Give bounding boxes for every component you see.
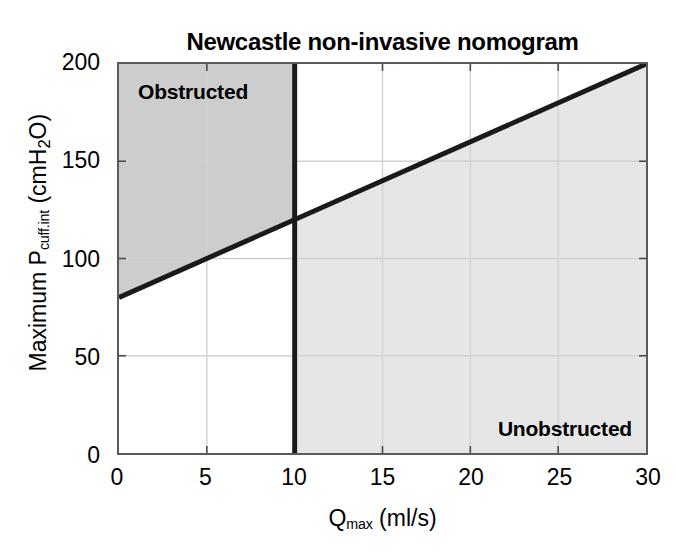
xtick-label-25: 25 <box>530 466 590 489</box>
region-label-unobstructed: Unobstructed <box>498 417 632 441</box>
nomogram-figure: Newcastle non-invasive nomogram <box>0 0 676 553</box>
xtick-label-5: 5 <box>176 466 236 489</box>
yaxis-title-units-close: O) <box>25 114 51 140</box>
xaxis-title-units: (ml/s) <box>373 505 437 531</box>
xaxis-title: Qmax (ml/s) <box>117 505 648 532</box>
yaxis-title-subscript-two: 2 <box>35 139 54 148</box>
yaxis-title: Maximum Pcuff.int (cmH2O) <box>25 33 54 453</box>
xtick-label-30: 30 <box>618 466 676 489</box>
xtick-label-10: 10 <box>264 466 324 489</box>
plot-canvas <box>119 64 646 453</box>
region-label-obstructed: Obstructed <box>138 80 248 104</box>
yaxis-title-prefix: Maximum P <box>25 250 51 371</box>
xaxis-title-prefix: Q <box>328 505 346 531</box>
xtick-label-0: 0 <box>87 466 147 489</box>
xtick-label-20: 20 <box>441 466 501 489</box>
yaxis-title-units-open: (cmH <box>25 149 51 210</box>
xaxis-title-subscript: max <box>346 516 372 532</box>
chart-title: Newcastle non-invasive nomogram <box>117 28 648 56</box>
yaxis-title-subscript: cuff.int <box>36 210 52 250</box>
plot-area: Obstructed Unobstructed <box>117 62 648 455</box>
xtick-label-15: 15 <box>353 466 413 489</box>
